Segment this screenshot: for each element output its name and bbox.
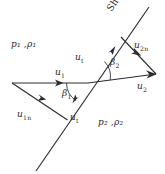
u1n-subscript: 1n xyxy=(23,114,31,121)
shock-wave-line xyxy=(36,7,149,171)
downstream-region-label: p₂ ,ρ₂ xyxy=(98,118,123,127)
ut-lower-label: ut xyxy=(70,113,79,124)
beta2-label: β2 xyxy=(110,58,120,69)
ut-upper-arrowhead xyxy=(109,46,116,55)
ut-lower-subscript: t xyxy=(76,117,79,124)
u2-arrowhead xyxy=(146,70,157,78)
shock-wave-diagram: Shock wave p₁ ,ρ₁ p₂ ,ρ₂ u1 u1n ut ut u2… xyxy=(0,0,165,174)
u1n-arrowhead xyxy=(38,94,47,101)
u1-subscript: 1 xyxy=(61,72,65,79)
beta2-subscript: 2 xyxy=(115,62,119,69)
u1-label: u1 xyxy=(55,68,65,79)
u1n-label: u1n xyxy=(17,110,31,121)
beta1-label: β1 xyxy=(62,89,72,100)
ut-upper-label: ut xyxy=(75,53,84,64)
beta1-subscript: 1 xyxy=(67,93,71,100)
ut-upper-subscript: t xyxy=(81,57,84,64)
upstream-region-label: p₁ ,ρ₁ xyxy=(11,40,36,49)
u2n-subscript: 2n xyxy=(140,45,148,52)
u2-subscript: 2 xyxy=(143,86,147,93)
u2-label: u2 xyxy=(137,82,147,93)
u2n-label: u2n xyxy=(134,41,148,52)
